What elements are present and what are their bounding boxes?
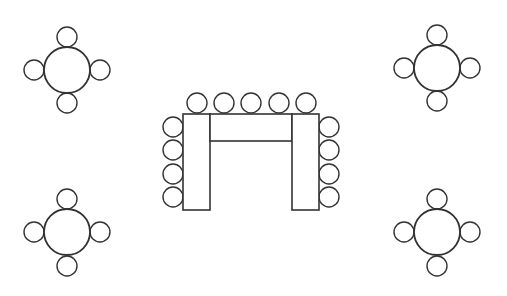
round-table-group-bottom-right — [394, 189, 480, 276]
round-table-bottom-left — [44, 209, 90, 255]
u-chair-left-2 — [163, 140, 183, 160]
chair-right — [460, 222, 480, 242]
chair-right — [460, 58, 480, 78]
chair-top — [57, 189, 77, 209]
round-table-bottom-right — [414, 209, 460, 255]
round-tables-group — [24, 25, 480, 276]
round-table-top-right — [414, 45, 460, 91]
chair-top — [427, 25, 447, 45]
u-table-right-leg — [292, 114, 319, 210]
u-chair-top-2 — [214, 93, 234, 113]
chair-right — [90, 60, 110, 80]
u-table-top-bar — [210, 114, 292, 141]
chair-left — [24, 222, 44, 242]
chair-bottom — [57, 93, 77, 113]
chair-bottom — [57, 256, 77, 276]
u-chair-right-3 — [319, 164, 339, 184]
chair-top — [427, 189, 447, 209]
u-chair-top-4 — [269, 93, 289, 113]
chair-left — [394, 58, 414, 78]
chair-left — [394, 222, 414, 242]
u-chair-right-1 — [319, 117, 339, 137]
chair-right — [90, 222, 110, 242]
chair-bottom — [427, 91, 447, 111]
round-table-group-bottom-left — [24, 189, 110, 276]
u-chair-left-3 — [163, 164, 183, 184]
u-chair-top-5 — [296, 93, 316, 113]
chair-left — [24, 60, 44, 80]
round-table-group-top-right — [394, 25, 480, 111]
u-chair-left-4 — [163, 187, 183, 207]
seating-diagram — [0, 0, 507, 296]
u-chair-top-3 — [241, 93, 261, 113]
u-table-segments — [183, 114, 319, 210]
u-chair-right-2 — [319, 140, 339, 160]
u-shaped-table — [163, 93, 339, 210]
u-chair-left-1 — [163, 117, 183, 137]
u-chair-right-4 — [319, 187, 339, 207]
u-table-left-leg — [183, 114, 210, 210]
round-table-group-top-left — [24, 27, 110, 113]
u-chair-top-1 — [187, 93, 207, 113]
round-table-top-left — [44, 47, 90, 93]
chair-top — [57, 27, 77, 47]
chair-bottom — [427, 256, 447, 276]
